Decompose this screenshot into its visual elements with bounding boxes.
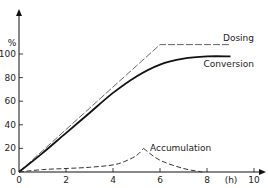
x-tick-label: 4 bbox=[110, 175, 116, 185]
y-tick-label: 60 bbox=[5, 96, 17, 106]
labels-group: DosingConversionAccumulation bbox=[150, 33, 254, 153]
x-tick-label: 2 bbox=[63, 175, 69, 185]
y-tick-label: 80 bbox=[5, 73, 17, 83]
y-axis-label: % bbox=[8, 38, 17, 48]
x-tick-label: 8 bbox=[204, 175, 210, 185]
x-tick-label: 6 bbox=[157, 175, 163, 185]
x-tick-label: 0 bbox=[16, 175, 22, 185]
series-label-accumulation: Accumulation bbox=[150, 143, 211, 153]
x-tick-label: 10 bbox=[248, 175, 260, 185]
y-tick-label: 40 bbox=[5, 120, 17, 130]
y-tick-label: 100 bbox=[0, 49, 16, 59]
y-tick-label: 20 bbox=[5, 143, 17, 153]
x-axis-arrow-icon bbox=[259, 169, 266, 175]
series-conversion-line bbox=[19, 56, 231, 172]
series-label-dosing: Dosing bbox=[223, 33, 254, 43]
y-axis-arrow-icon bbox=[16, 9, 22, 16]
x-axis-label: (h) bbox=[225, 175, 238, 185]
series-label-conversion: Conversion bbox=[204, 59, 254, 69]
chart: 0246810(h)020406080100% DosingConversion… bbox=[0, 0, 268, 188]
y-tick-label: 0 bbox=[10, 167, 16, 177]
